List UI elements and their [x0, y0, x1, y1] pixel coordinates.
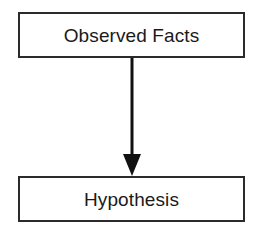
node-observed-facts[interactable]: Observed Facts [18, 12, 245, 58]
node-hypothesis-label: Hypothesis [84, 190, 179, 209]
arrow-head [123, 154, 141, 176]
node-hypothesis[interactable]: Hypothesis [18, 176, 245, 222]
node-observed-facts-label: Observed Facts [64, 26, 200, 45]
diagram-canvas: Observed Facts Hypothesis [0, 0, 263, 236]
